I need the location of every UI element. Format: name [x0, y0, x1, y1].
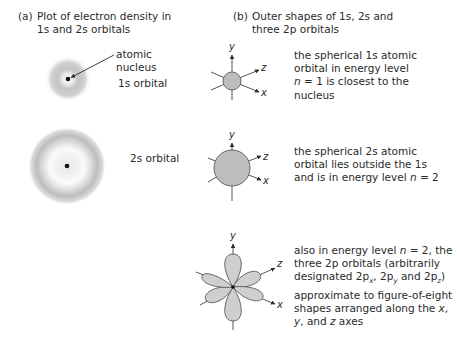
orbital-1s-label: 1s orbital	[118, 77, 167, 90]
axis-label-x: x	[276, 299, 283, 310]
axis-label-y: y	[228, 129, 236, 140]
orbital-shape-2p: y z x	[196, 230, 283, 330]
axis-label-z: z	[276, 258, 283, 269]
orbital-shape-2s: y z x	[208, 129, 269, 201]
panel-a-heading-line2: 1s and 2s orbitals	[18, 23, 171, 36]
panel-a-heading: (a)Plot of electron density in 1s and 2s…	[18, 10, 171, 36]
axis-label-z: z	[262, 151, 269, 162]
orbital-2s-label: 2s orbital	[130, 152, 179, 165]
panel-a-heading-line1: Plot of electron density in	[37, 10, 171, 22]
panel-a-tag: (a)	[18, 10, 37, 23]
panel-b-heading-line1: Outer shapes of 1s, 2s and	[252, 10, 393, 22]
axis-label-y: y	[229, 230, 237, 241]
orbital-shape-1s: y z x	[211, 41, 267, 100]
panel-b-heading-line2: three 2p orbitals	[233, 23, 393, 36]
axis-label-z: z	[260, 62, 267, 73]
axis-label-x: x	[260, 87, 267, 98]
description-1s: the spherical 1s atomic orbital in energ…	[294, 49, 457, 102]
panel-b-tag: (b)	[233, 10, 252, 23]
description-2p: also in energy level n = 2, the three 2p…	[294, 244, 454, 328]
panel-b-heading: (b)Outer shapes of 1s, 2s and three 2p o…	[233, 10, 393, 36]
axis-label-y: y	[228, 41, 236, 52]
electron-density-2s	[28, 127, 106, 205]
description-2s: the spherical 2s atomic orbital lies out…	[294, 145, 457, 185]
electron-density-1s	[45, 56, 91, 102]
axis-label-x: x	[262, 175, 269, 186]
nucleus-dot-1s	[66, 77, 71, 82]
nucleus-label: atomic nucleus	[116, 48, 157, 74]
nucleus-dot-2s	[65, 164, 70, 169]
